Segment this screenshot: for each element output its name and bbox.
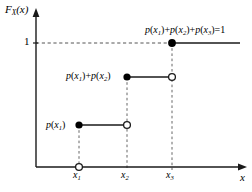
y-axis-label-f: F (5, 3, 12, 15)
x-tick-3-sub: 3 (170, 174, 173, 181)
x-axis-label: x (240, 172, 245, 183)
x-tick-label-1: x1 (73, 170, 81, 180)
y-axis-label: FX(x) (5, 4, 28, 15)
closed-marker-step-2 (123, 73, 130, 80)
step3-sub-2: 2 (183, 29, 186, 36)
closed-marker-step-1 (75, 121, 82, 128)
closed-marker-step-3 (168, 39, 176, 47)
x-tick-label-2: x2 (121, 170, 129, 180)
y-axis-arrowhead (33, 8, 40, 17)
x-axis-arrowhead (238, 164, 247, 171)
step1-sub: 1 (59, 124, 62, 131)
cdf-step-chart: FX(x) 1 x x1 x2 x3 p(x1) p(x1)+p(x2) p(x… (0, 0, 252, 192)
step-3-value-label: p(x1)+p(x2)+p(x3)=1 (145, 25, 225, 35)
y-tick-label-one: 1 (24, 36, 30, 47)
step1-close-paren: ) (62, 119, 65, 130)
x-tick-2-sub: 2 (125, 174, 128, 181)
step2-close-paren-2: ) (107, 70, 110, 81)
step3-equals-one: =1 (215, 24, 226, 35)
y-axis-label-arg: (x) (16, 3, 28, 15)
step-1-value-label: p(x1) (46, 120, 65, 130)
step2-sub-2: 2 (104, 75, 107, 82)
step3-sub-3: 3 (208, 29, 211, 36)
x-tick-1-sub: 1 (77, 174, 80, 181)
step3-sub-1: 1 (158, 29, 161, 36)
x-tick-label-3: x3 (166, 170, 174, 180)
step2-sub-1: 1 (79, 75, 82, 82)
y-axis-label-sub: X (12, 9, 16, 17)
step-2-value-label: p(x1)+p(x2) (66, 71, 111, 81)
open-marker-step-1 (124, 122, 131, 129)
open-marker-step-2 (169, 74, 176, 81)
